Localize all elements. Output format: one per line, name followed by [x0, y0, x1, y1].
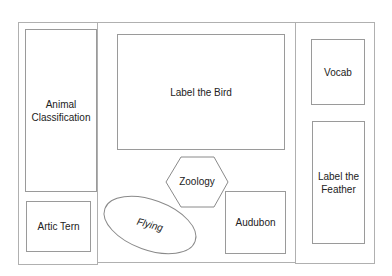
label-the-feather-label: Label the Feather	[315, 170, 363, 196]
vocab-box[interactable]: Vocab	[311, 39, 365, 105]
vocab-label: Vocab	[324, 66, 352, 79]
audubon-label: Audubon	[235, 216, 275, 229]
label-the-feather-box[interactable]: Label the Feather	[312, 121, 365, 244]
audubon-box[interactable]: Audubon	[225, 191, 286, 254]
zoology-label: Zoology	[166, 176, 228, 187]
